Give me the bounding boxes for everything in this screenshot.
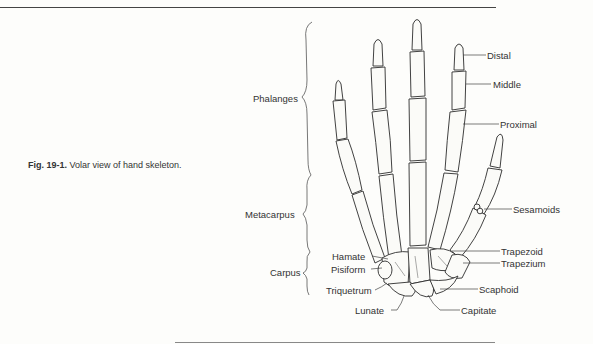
- label-capitate: Capitate: [461, 305, 496, 316]
- label-pisiform: Pisiform: [331, 264, 365, 275]
- phalanges-brace: [302, 22, 312, 175]
- capitate-bone: [408, 248, 430, 284]
- metacarpus-brace: [303, 175, 311, 252]
- index-finger: [428, 44, 466, 250]
- label-trapezium: Trapezium: [501, 258, 546, 269]
- pisiform-bone: [378, 261, 392, 279]
- middle-finger: [409, 20, 426, 247]
- label-trapezoid: Trapezoid: [501, 246, 543, 257]
- label-sesamoids: Sesamoids: [513, 204, 560, 215]
- label-triquetrum: Triquetrum: [326, 285, 372, 296]
- label-lunate: Lunate: [355, 305, 384, 316]
- label-metacarpus: Metacarpus: [245, 209, 295, 220]
- sesamoid-bone-2: [477, 208, 483, 214]
- scaphoid-bone: [430, 276, 458, 294]
- ring-finger: [371, 40, 402, 260]
- carpal-bones: [378, 248, 470, 297]
- label-phalanges: Phalanges: [253, 93, 298, 104]
- region-braces: [302, 22, 312, 295]
- label-distal: Distal: [487, 50, 511, 61]
- label-scaphoid: Scaphoid: [479, 284, 519, 295]
- label-carpus: Carpus: [270, 267, 301, 278]
- label-hamate: Hamate: [332, 251, 365, 262]
- carpus-brace: [303, 252, 310, 295]
- label-middle: Middle: [493, 79, 521, 90]
- label-proximal: Proximal: [500, 119, 537, 130]
